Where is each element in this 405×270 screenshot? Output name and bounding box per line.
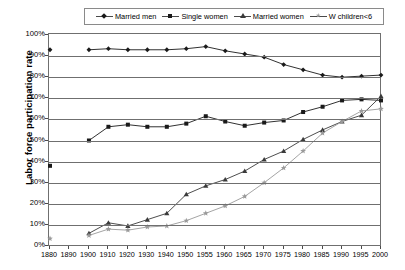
y-axis-tick [45,140,48,141]
series-line [89,47,381,78]
y-axis-tick-label: 70% [13,92,45,101]
chart-root: Married menSingle womenMarried womenW ch… [0,0,405,270]
x-axis-tick [127,246,128,249]
chart-legend: Married menSingle womenMarried womenW ch… [84,8,384,25]
y-axis-tick [45,224,48,225]
diamond-icon [96,12,113,21]
data-point [106,125,110,129]
data-point [242,168,247,173]
data-point [47,236,53,241]
gridline [49,204,380,205]
data-point [126,123,130,127]
y-axis-tick-label: 60% [13,113,45,122]
data-point [281,62,286,67]
y-axis-tick-label: 100% [13,29,45,38]
data-point [125,227,131,232]
data-point [281,148,286,153]
gridline [49,119,380,120]
x-axis-tick [283,246,284,249]
x-axis-tick [146,246,147,249]
x-axis-tick [341,246,342,249]
data-point [243,124,247,128]
y-axis-tick-label: 20% [13,198,45,207]
x-axis-tick-label: 2000 [366,250,394,259]
y-axis-tick-label: 10% [13,219,45,228]
data-point [164,47,169,52]
y-axis-tick-label: 80% [13,71,45,80]
gridline [49,56,380,57]
data-point [378,106,384,111]
data-point [262,121,266,125]
gridline [49,77,380,78]
data-point [48,164,52,168]
x-axis-tick [49,246,50,249]
y-axis-tick [45,34,48,35]
x-axis-tick [263,246,264,249]
y-axis-tick-label: 90% [13,50,45,59]
gridline [49,225,380,226]
data-point [359,108,365,113]
data-point [183,218,189,223]
data-point [184,122,188,126]
data-point [301,110,305,114]
data-point [184,46,189,51]
data-point [242,193,248,198]
y-axis-tick [45,97,48,98]
star-icon [310,12,327,21]
data-point [223,48,228,53]
square-icon [162,12,179,21]
legend-label: W children<6 [329,12,372,21]
x-axis-tick [224,246,225,249]
data-point [87,47,92,52]
gridline [49,162,380,163]
data-point [321,105,325,109]
gridline [49,141,380,142]
series-single-women [48,97,383,167]
triangle-icon [234,12,251,21]
x-axis-tick [107,246,108,249]
x-axis-tick [244,246,245,249]
x-axis-tick [88,246,89,249]
data-point [203,44,208,49]
x-axis-tick [185,246,186,249]
data-point [145,125,149,129]
x-axis-tick [361,246,362,249]
data-point [204,114,208,118]
x-axis-tick [302,246,303,249]
data-point [86,232,92,237]
x-axis-tick [322,246,323,249]
y-axis-tick [45,118,48,119]
gridline [49,183,380,184]
gridline [49,98,380,99]
data-point [125,47,130,52]
series-line [89,96,381,233]
legend-item-married-women[interactable]: Married women [234,12,304,21]
y-axis-tick [45,76,48,77]
data-point [48,47,53,52]
series-married-men [48,44,384,79]
series-line [89,109,381,236]
series-w-children-6 [47,106,384,241]
y-axis-tick-label: 40% [13,156,45,165]
data-point [106,226,112,231]
y-axis-tick [45,55,48,56]
legend-item-single-women[interactable]: Single women [162,12,227,21]
y-axis-tick [45,161,48,162]
legend-label: Married women [253,12,304,21]
legend-label: Single women [181,12,227,21]
data-point [223,177,228,182]
legend-item-married-men[interactable]: Married men [96,12,156,21]
y-axis-tick [45,182,48,183]
y-axis-tick-label: 0% [13,240,45,249]
legend-item-w-children-6[interactable]: W children<6 [310,12,372,21]
series-married-women [86,94,383,236]
y-axis-tick-label: 50% [13,135,45,144]
x-axis-tick [380,246,381,249]
legend-label: Married men [115,12,156,21]
x-axis-tick [166,246,167,249]
data-point [203,210,209,215]
x-axis-tick [205,246,206,249]
data-point [145,47,150,52]
y-axis-tick [45,203,48,204]
y-axis-tick [45,245,48,246]
